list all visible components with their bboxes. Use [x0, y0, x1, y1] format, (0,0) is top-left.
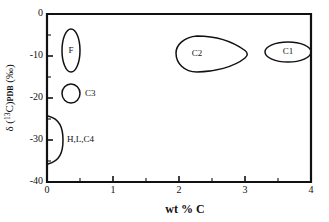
region-c2-shape[interactable] — [176, 36, 247, 72]
x-tick-label-1: 1 — [111, 184, 116, 195]
x-tick-label-0: 0 — [45, 184, 50, 195]
region-c3-shape[interactable] — [62, 84, 80, 103]
region-f[interactable]: F — [62, 29, 80, 72]
y-axis-tick-labels: 0 -10 -20 -30 -40 — [30, 7, 43, 186]
x-axis-title: wt % C — [165, 202, 204, 216]
x-tick-label-4: 4 — [309, 184, 314, 195]
y-axis-title-units: (‰) — [3, 64, 16, 85]
region-f-label: F — [68, 45, 73, 55]
region-hlc4[interactable]: H,L,C4 — [48, 116, 95, 164]
scatter-plot-svg: 0 -10 -20 -30 -40 0 1 2 3 4 wt % C — [0, 0, 329, 222]
x-tick-label-2: 2 — [177, 184, 182, 195]
y-tick-label-1: -10 — [30, 49, 43, 60]
axis-box — [47, 14, 311, 182]
y-axis-title-subscript: PDB — [6, 85, 15, 102]
x-axis-tick-labels: 0 1 2 3 4 — [45, 184, 314, 195]
y-tick-label-0: 0 — [38, 7, 43, 18]
region-c3-label: C3 — [85, 88, 96, 98]
region-c1-label: C1 — [283, 46, 294, 56]
region-hlc4-label: H,L,C4 — [67, 134, 95, 144]
region-c3[interactable]: C3 — [62, 84, 96, 103]
region-c2-label: C2 — [192, 48, 203, 58]
plot-frame — [47, 14, 311, 182]
y-tick-label-4: -40 — [30, 175, 43, 186]
x-tick-label-3: 3 — [243, 184, 248, 195]
region-c2[interactable]: C2 — [176, 36, 247, 72]
y-tick-label-2: -20 — [30, 91, 43, 102]
y-tick-label-3: -30 — [30, 133, 43, 144]
region-c1[interactable]: C1 — [265, 42, 311, 62]
y-axis-title-element: C — [3, 105, 15, 112]
y-axis-title: δ (13C)PDB (‰) — [3, 64, 17, 132]
data-regions: F C3 H,L,C4 C2 C1 — [48, 29, 311, 164]
chart-figure: 0 -10 -20 -30 -40 0 1 2 3 4 wt % C — [0, 0, 329, 222]
svg-text:δ (13C)PDB (‰): δ (13C)PDB (‰) — [3, 64, 17, 132]
